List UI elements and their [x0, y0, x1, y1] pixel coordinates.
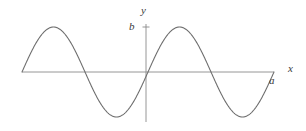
amplitude-label-b: b: [129, 21, 135, 32]
figure-canvas: [0, 0, 306, 131]
y-axis-label: y: [141, 5, 146, 16]
x-axis-label: x: [288, 63, 293, 74]
sine-wave-figure: y b x a: [0, 0, 306, 131]
x-endpoint-label-a: a: [269, 75, 275, 86]
